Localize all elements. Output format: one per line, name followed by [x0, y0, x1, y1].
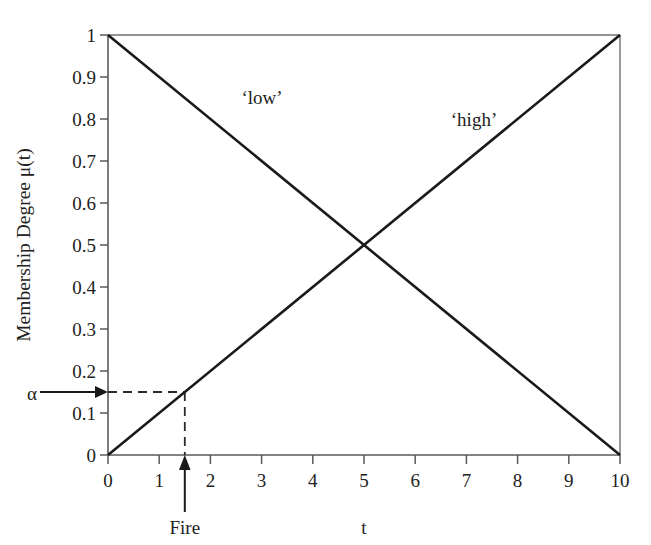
x-tick-label-1: 1	[154, 470, 164, 491]
y-tick-label-0-2: 0.2	[72, 361, 96, 382]
x-tick-label-6: 6	[410, 470, 420, 491]
y-tick-label-0-1: 0.1	[72, 403, 96, 424]
alpha-label: α	[27, 383, 37, 404]
x-axis-tick-labels: 0 1 2 3 4 5 6 7 8 9 10	[103, 470, 629, 491]
y-tick-label-0: 0	[87, 445, 97, 466]
y-axis-tick-labels: 1 0.9 0.8 0.7 0.6 0.5 0.4 0.3 0.2 0.1 0	[72, 25, 96, 466]
y-tick-label-0-4: 0.4	[72, 277, 96, 298]
alpha-arrow-head	[95, 386, 108, 398]
series-label-low: ‘low’	[241, 87, 282, 108]
x-tick-label-2: 2	[206, 470, 216, 491]
fire-arrow	[179, 455, 191, 512]
chart-canvas: 1 0.9 0.8 0.7 0.6 0.5 0.4 0.3 0.2 0.1 0	[0, 0, 651, 545]
y-tick-label-0-9: 0.9	[72, 67, 96, 88]
y-axis-title: Membership Degree μ(t)	[13, 148, 35, 341]
y-tick-label-0-8: 0.8	[72, 109, 96, 130]
x-tick-label-9: 9	[564, 470, 574, 491]
x-tick-label-0: 0	[103, 470, 113, 491]
x-tick-label-3: 3	[257, 470, 267, 491]
x-tick-label-10: 10	[611, 470, 630, 491]
y-tick-label-0-5: 0.5	[72, 235, 96, 256]
membership-function-chart: 1 0.9 0.8 0.7 0.6 0.5 0.4 0.3 0.2 0.1 0	[0, 0, 651, 545]
x-tick-label-5: 5	[359, 470, 369, 491]
series-label-high: ‘high’	[451, 109, 497, 130]
alpha-arrow	[40, 386, 108, 398]
x-axis-title: t	[361, 517, 367, 538]
x-tick-label-4: 4	[308, 470, 318, 491]
fire-label: Fire	[169, 517, 200, 538]
fire-arrow-head	[179, 455, 191, 470]
y-tick-label-0-7: 0.7	[72, 151, 96, 172]
x-tick-label-7: 7	[462, 470, 472, 491]
y-tick-label-1: 1	[87, 25, 97, 46]
x-tick-label-8: 8	[513, 470, 523, 491]
y-tick-label-0-6: 0.6	[72, 193, 96, 214]
y-tick-label-0-3: 0.3	[72, 319, 96, 340]
